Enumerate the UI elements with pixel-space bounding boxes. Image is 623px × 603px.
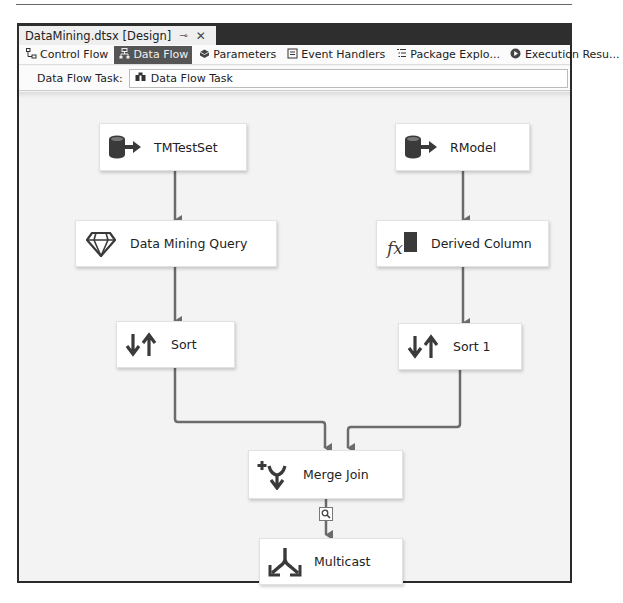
document-tab[interactable]: DataMining.dtsx [Design] ⊸ ✕	[19, 26, 216, 45]
event-handlers-icon	[286, 48, 298, 61]
magnifier-icon	[321, 509, 331, 519]
designer-window: DataMining.dtsx [Design] ⊸ ✕ Control Flo…	[17, 23, 572, 583]
svg-text:fx: fx	[385, 238, 403, 258]
data-flow-task-icon	[135, 72, 146, 85]
data-flow-task-select[interactable]: Data Flow Task	[129, 69, 568, 88]
control-flow-icon	[25, 48, 37, 61]
component-derived-column[interactable]: fx Derived Column	[376, 220, 549, 267]
tab-label: Package Explo...	[410, 48, 500, 61]
tab-control-flow[interactable]: Control Flow	[21, 46, 112, 64]
parameters-icon	[198, 48, 210, 61]
fx-icon: fx	[385, 230, 419, 258]
component-label: TMTestSet	[154, 140, 218, 155]
component-label: Sort 1	[453, 339, 491, 354]
merge-join-icon	[257, 461, 291, 489]
source-icon	[108, 133, 142, 161]
component-rmodel[interactable]: RModel	[395, 123, 530, 171]
design-canvas[interactable]: TMTestSet RModel Data Mining Query fx De…	[19, 92, 570, 581]
sort-icon	[125, 331, 159, 359]
execution-results-icon	[510, 48, 522, 61]
document-tab-strip: DataMining.dtsx [Design] ⊸ ✕	[17, 23, 572, 45]
data-flow-task-bar: Data Flow Task: Data Flow Task	[19, 66, 570, 91]
tab-package-explorer[interactable]: Package Explo...	[391, 46, 504, 64]
data-viewer-badge[interactable]	[319, 507, 333, 521]
component-label: Multicast	[314, 554, 371, 569]
tab-label: Control Flow	[40, 48, 108, 61]
data-flow-icon	[118, 48, 130, 61]
component-label: Derived Column	[431, 236, 532, 251]
close-icon[interactable]: ✕	[196, 29, 206, 43]
sort-icon	[407, 333, 441, 361]
page-top-rule	[16, 4, 572, 5]
tab-label: Execution Resu...	[525, 48, 620, 61]
tab-parameters[interactable]: Parameters	[194, 46, 280, 64]
component-sort-1[interactable]: Sort 1	[398, 323, 522, 370]
component-tmtestset[interactable]: TMTestSet	[99, 123, 247, 171]
multicast-icon	[268, 548, 302, 576]
tab-data-flow[interactable]: Data Flow	[114, 46, 192, 64]
document-tab-title: DataMining.dtsx [Design]	[25, 29, 171, 43]
diamond-icon	[84, 230, 118, 258]
pin-icon[interactable]: ⊸	[179, 30, 187, 41]
source-icon	[404, 133, 438, 161]
component-data-mining-query[interactable]: Data Mining Query	[75, 220, 277, 267]
component-label: Merge Join	[303, 467, 369, 482]
tab-execution-results[interactable]: Execution Resu...	[506, 46, 623, 64]
path-sort1-to-merge[interactable]	[348, 370, 460, 448]
tab-label: Parameters	[213, 48, 276, 61]
tab-label: Event Handlers	[301, 48, 385, 61]
path-sort-to-merge[interactable]	[175, 368, 325, 448]
component-merge-join[interactable]: Merge Join	[248, 450, 403, 499]
data-flow-task-value: Data Flow Task	[151, 72, 233, 85]
tab-label: Data Flow	[133, 48, 188, 61]
data-flow-task-label: Data Flow Task:	[37, 72, 123, 85]
designer-tabs: Control Flow Data Flow Parameters Event …	[19, 45, 570, 65]
component-multicast[interactable]: Multicast	[259, 538, 403, 585]
component-label: RModel	[450, 140, 496, 155]
component-label: Data Mining Query	[130, 236, 247, 251]
component-label: Sort	[171, 337, 197, 352]
package-explorer-icon	[395, 48, 407, 61]
component-sort[interactable]: Sort	[116, 321, 235, 368]
tab-event-handlers[interactable]: Event Handlers	[282, 46, 389, 64]
